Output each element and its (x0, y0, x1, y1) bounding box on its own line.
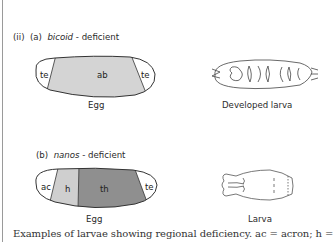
segment-ac: ac (41, 182, 51, 192)
egg-a-caption: Egg (88, 100, 104, 110)
larva-b-caption: Larva (248, 214, 272, 224)
larva-a-caption: Developed larva (222, 100, 292, 110)
developed-larva-drawing (212, 60, 318, 89)
segment-te: te (145, 182, 154, 192)
egg-b-caption: Egg (86, 214, 102, 224)
egg-nanos: ac h th te (30, 160, 165, 220)
segment-h: h (65, 184, 70, 194)
segment-th: th (100, 184, 109, 194)
figure-caption: Examples of larvae showing regional defi… (13, 228, 333, 239)
diagram-drawing: te ab te (0, 0, 335, 242)
larva-nanos-drawing (222, 170, 293, 200)
segment-te-anterior: te (40, 70, 49, 80)
segment-te-posterior: te (141, 70, 150, 80)
figure: (ii) (a) bicoid - deficient (b) nanos - … (0, 0, 335, 242)
segment-ab: ab (97, 70, 108, 80)
